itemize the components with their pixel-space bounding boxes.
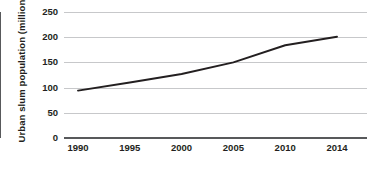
series-line-urban-slum-population bbox=[78, 37, 337, 91]
line-chart: Urban slum population (millions) 2502001… bbox=[0, 0, 375, 173]
series-layer bbox=[0, 0, 375, 173]
